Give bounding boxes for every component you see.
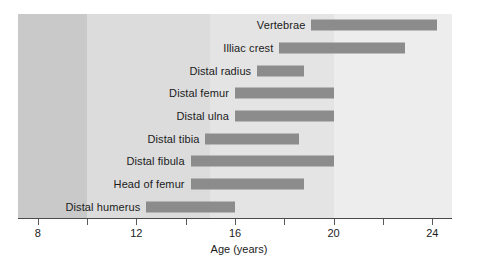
x-axis-tick (136, 219, 137, 225)
x-axis-tick-label: 20 (328, 227, 340, 239)
bar-row: Distal humerus (18, 195, 452, 218)
bone-fusion-age-chart: Vertebrae Illiac crest Distal radius Dis… (0, 0, 478, 261)
bar-row: Illiac crest (18, 37, 452, 60)
x-axis-tick-label: 24 (426, 227, 438, 239)
bar-row: Head of femur (18, 173, 452, 196)
bar-label-distal-tibia: Distal tibia (147, 133, 199, 145)
bar-label-distal-humerus: Distal humerus (65, 201, 140, 213)
bar-label-distal-radius: Distal radius (189, 65, 251, 77)
bar-row: Distal ulna (18, 105, 452, 128)
bar-label-head-of-femur: Head of femur (114, 178, 185, 190)
x-axis-tick (38, 219, 39, 225)
bar-head-of-femur (191, 178, 304, 189)
bar-vertebrae (311, 20, 437, 31)
x-axis-tick (235, 219, 236, 225)
bar-row: Distal fibula (18, 150, 452, 173)
bar-distal-fibula (191, 156, 334, 167)
x-axis-tick (284, 219, 285, 225)
bar-distal-tibia (205, 133, 299, 144)
bar-distal-radius (257, 65, 304, 76)
bar-row: Distal radius (18, 59, 452, 82)
bar-row: Vertebrae (18, 14, 452, 37)
bar-label-distal-ulna: Distal ulna (177, 110, 229, 122)
x-axis-tick (432, 219, 433, 225)
x-axis-tick-label: 16 (229, 227, 241, 239)
bar-illiac-crest (279, 42, 405, 53)
x-axis-tick (334, 219, 335, 225)
bar-label-distal-femur: Distal femur (169, 87, 229, 99)
x-axis-tick (186, 219, 187, 225)
bar-distal-ulna (235, 110, 334, 121)
bar-row: Distal femur (18, 82, 452, 105)
x-axis-tick-label: 12 (130, 227, 142, 239)
x-axis-tick (383, 219, 384, 225)
bar-distal-femur (235, 88, 334, 99)
bar-row: Distal tibia (18, 127, 452, 150)
x-axis-title: Age (years) (0, 243, 478, 255)
bar-label-illiac-crest: Illiac crest (223, 42, 273, 54)
bar-label-distal-fibula: Distal fibula (126, 155, 184, 167)
bar-label-vertebrae: Vertebrae (257, 19, 306, 31)
bar-distal-humerus (146, 201, 235, 212)
bars-layer: Vertebrae Illiac crest Distal radius Dis… (18, 14, 452, 218)
x-axis-tick-label: 8 (35, 227, 41, 239)
x-axis-tick (87, 219, 88, 225)
